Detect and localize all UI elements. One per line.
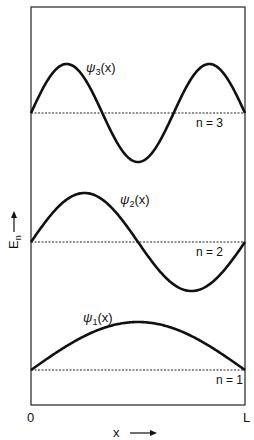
level-label-n3: n = 3 (196, 116, 223, 130)
x-arrowhead-icon (150, 430, 157, 436)
particle-in-box-diagram: ψ3(x) ψ2(x) ψ1(x) n = 3 n = 2 n = 1 0 L … (0, 0, 254, 440)
psi2-label: ψ2(x) (120, 192, 150, 209)
psi1-label: ψ1(x) (83, 310, 113, 327)
x-start-label: 0 (27, 410, 34, 425)
svg-text:En: En (6, 235, 23, 249)
x-end-label: L (243, 410, 250, 425)
x-axis-label: x (113, 425, 120, 440)
psi3-label: ψ3(x) (86, 60, 116, 77)
level-label-n1: n = 1 (216, 373, 243, 387)
y-axis-label: En (6, 235, 23, 249)
y-arrowhead-icon (11, 211, 17, 218)
wavefunction-n1 (31, 322, 245, 370)
level-label-n2: n = 2 (196, 245, 223, 259)
